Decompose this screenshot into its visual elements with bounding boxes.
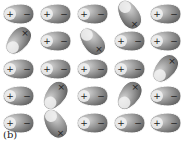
- dipole-molecule: +−: [38, 57, 72, 81]
- dipole-molecule: +−: [38, 29, 72, 53]
- minus-sign-icon: −: [134, 36, 142, 46]
- dipole-molecule: +−: [148, 29, 182, 53]
- plus-sign-icon: +: [6, 118, 14, 128]
- cross-sign-icon: ×: [132, 82, 140, 92]
- dipole-body-icon: [1, 22, 36, 59]
- minus-sign-icon: −: [60, 36, 68, 46]
- minus-sign-icon: −: [134, 118, 142, 128]
- dipole-molecule: +−: [75, 111, 109, 135]
- plus-sign-icon: +: [80, 64, 88, 74]
- minus-sign-icon: −: [23, 9, 31, 19]
- plus-sign-icon: +: [6, 9, 14, 19]
- dipole-molecule: +−: [1, 57, 35, 81]
- cross-sign-icon: ×: [58, 82, 66, 92]
- dipole-body-icon: [38, 77, 72, 114]
- minus-sign-icon: −: [97, 91, 105, 101]
- plus-sign-icon: +: [153, 118, 161, 128]
- minus-sign-icon: −: [170, 36, 178, 46]
- minus-sign-icon: −: [134, 64, 142, 74]
- dipole-molecule: +−: [112, 111, 146, 135]
- dipole-molecule: +−: [112, 57, 146, 81]
- dipole-molecule: +−: [75, 84, 109, 108]
- minus-sign-icon: −: [23, 91, 31, 101]
- cross-sign-icon: ×: [57, 128, 65, 138]
- plus-sign-icon: +: [117, 118, 125, 128]
- dipole-molecule: +−: [148, 84, 182, 108]
- dipole-molecule: ×: [38, 111, 72, 135]
- plus-sign-icon: +: [43, 64, 51, 74]
- dipole-molecule: +−: [1, 84, 35, 108]
- minus-sign-icon: −: [97, 118, 105, 128]
- dipole-molecule: +−: [148, 111, 182, 135]
- dipole-molecule: ×: [148, 57, 182, 81]
- minus-sign-icon: −: [23, 64, 31, 74]
- minus-sign-icon: −: [60, 64, 68, 74]
- dipole-molecule: ×: [112, 84, 146, 108]
- plus-sign-icon: +: [117, 36, 125, 46]
- dipole-molecule: ×: [38, 84, 72, 108]
- plus-sign-icon: +: [153, 9, 161, 19]
- dipole-molecule: ×: [112, 2, 146, 26]
- cross-sign-icon: ×: [131, 19, 139, 29]
- minus-sign-icon: −: [97, 9, 105, 19]
- dipole-molecule: +−: [112, 29, 146, 53]
- dipole-body-icon: [39, 105, 72, 142]
- dipole-molecule: ×: [1, 29, 35, 53]
- minus-sign-icon: −: [170, 118, 178, 128]
- cross-sign-icon: ×: [95, 44, 103, 54]
- dipole-molecule: +−: [75, 57, 109, 81]
- plus-sign-icon: +: [153, 36, 161, 46]
- plus-sign-icon: +: [80, 9, 88, 19]
- plus-sign-icon: +: [80, 91, 88, 101]
- cross-sign-icon: ×: [168, 56, 176, 66]
- plus-sign-icon: +: [153, 91, 161, 101]
- dipole-body-icon: [112, 77, 146, 114]
- plus-sign-icon: +: [6, 64, 14, 74]
- figure-label: (b): [3, 129, 17, 140]
- dipole-body-icon: [75, 23, 110, 60]
- cross-sign-icon: ×: [21, 28, 29, 38]
- dipole-molecule: +−: [38, 2, 72, 26]
- dipole-molecule: +−: [148, 2, 182, 26]
- minus-sign-icon: −: [60, 9, 68, 19]
- dipole-molecule: +−: [1, 2, 35, 26]
- dipole-molecule: +−: [75, 2, 109, 26]
- minus-sign-icon: −: [23, 118, 31, 128]
- plus-sign-icon: +: [43, 9, 51, 19]
- dipole-grid: +−+−+−×+−×+−×+−+−+−+−+−+−×+−×+−×+−+−×+−+…: [0, 0, 183, 143]
- minus-sign-icon: −: [97, 64, 105, 74]
- dipole-body-icon: [148, 50, 183, 87]
- minus-sign-icon: −: [170, 9, 178, 19]
- minus-sign-icon: −: [170, 91, 178, 101]
- plus-sign-icon: +: [43, 36, 51, 46]
- plus-sign-icon: +: [80, 118, 88, 128]
- dipole-molecule: ×: [75, 29, 109, 53]
- plus-sign-icon: +: [6, 91, 14, 101]
- plus-sign-icon: +: [117, 64, 125, 74]
